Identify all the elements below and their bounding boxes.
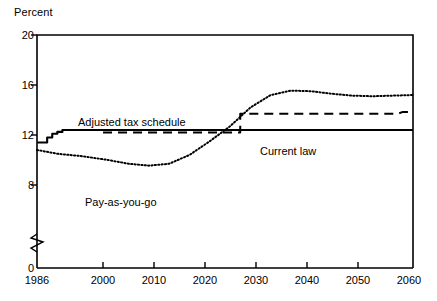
- chart-container: Percent 20 16 12 8 0 1986 2000 2010 2020…: [0, 0, 437, 301]
- axis-frame: [37, 35, 413, 268]
- series-line-pay-as-you-go: [37, 91, 413, 166]
- plot-area: [0, 0, 437, 301]
